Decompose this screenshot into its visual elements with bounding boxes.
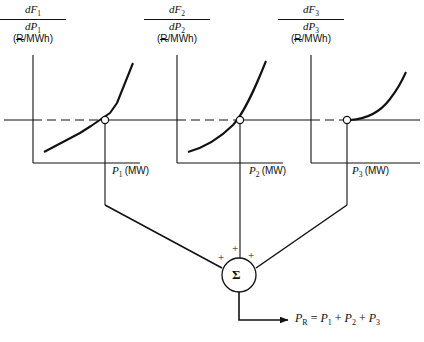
graph-1-x-axis-label: P1 (MW) <box>112 165 149 179</box>
summation-wiring <box>105 205 347 268</box>
output-equation: PR = P1 + P2 + P3 <box>295 312 380 327</box>
summation-plus-sign-right: + <box>248 250 254 261</box>
currency-symbol-1: R <box>16 34 23 44</box>
wire-p3-to-sum <box>256 205 347 268</box>
output-wire <box>239 292 288 320</box>
graph-unit-2 <box>177 55 283 258</box>
graph-3-y-axis-units: (R/MWh) <box>278 34 344 44</box>
graph-1-operating-point <box>101 116 108 123</box>
graph-1-y-axis-label: dF1 dP1 <box>0 4 66 34</box>
graph-2-curve <box>188 61 266 152</box>
graph-2-y-axis-units: (R/MWh) <box>144 34 210 44</box>
graph-1-y-axis-units: (R/MWh) <box>0 34 66 44</box>
summation-plus-sign-center: + <box>232 243 238 254</box>
graph-1-curve <box>44 63 133 152</box>
graph-3-curve <box>350 72 406 120</box>
graph-2-x-axis-label: P2 (MW) <box>249 165 286 179</box>
summation-sigma-symbol: Σ <box>232 268 241 281</box>
graph-3-operating-point <box>343 116 350 123</box>
wire-p1-to-sum <box>105 205 222 268</box>
graph-3-y-axis-label: dF3 dP3 <box>278 4 344 34</box>
currency-symbol-2: R <box>160 34 167 44</box>
graph-2-operating-point <box>236 116 243 123</box>
graph-unit-1 <box>33 55 140 205</box>
currency-symbol-3: R <box>294 34 301 44</box>
summation-plus-sign-left: + <box>218 252 224 263</box>
graph-3-x-axis-label: P3 (MW) <box>352 165 389 179</box>
graph-unit-3 <box>311 55 420 205</box>
graph-2-y-axis-label: dF2 dP2 <box>144 4 210 34</box>
